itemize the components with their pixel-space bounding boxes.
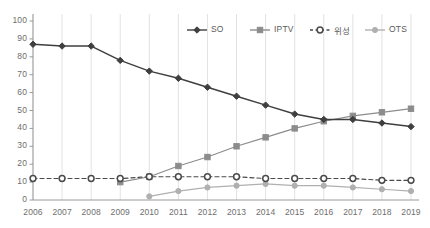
y-axis-tick-label: 60	[5, 87, 27, 97]
data-point-marker	[321, 183, 326, 188]
series-so	[30, 41, 414, 130]
legend-label-iptv: IPTV	[274, 24, 294, 34]
legend-marker-glyph	[257, 27, 262, 32]
data-point-marker	[205, 185, 210, 190]
legend-marker-glyph	[372, 27, 377, 32]
data-point-marker	[292, 176, 298, 182]
legend-marker--	[310, 27, 330, 33]
data-point-marker	[117, 57, 123, 63]
data-point-marker	[233, 93, 239, 99]
data-point-marker	[88, 43, 94, 49]
chart-container: 0102030405060708090100 20062007200820092…	[0, 0, 430, 228]
y-axis-tick-label: 100	[5, 15, 27, 25]
legend-marker-glyph	[194, 27, 200, 33]
data-point-marker	[321, 176, 327, 182]
data-point-marker	[292, 183, 297, 188]
data-point-marker	[147, 194, 152, 199]
data-point-marker	[59, 176, 65, 182]
series-layer	[30, 41, 414, 199]
data-point-marker	[205, 174, 211, 180]
y-axis-tick-label: 50	[5, 105, 27, 115]
data-point-marker	[146, 68, 152, 74]
legend-marker-iptv	[250, 27, 270, 32]
data-point-marker	[88, 176, 94, 182]
legend-label--: 위성	[334, 24, 350, 36]
data-point-marker	[379, 110, 384, 115]
y-axis-tick-label: 10	[5, 176, 27, 186]
data-point-marker	[408, 177, 414, 183]
data-point-marker	[408, 188, 413, 193]
data-point-marker	[408, 123, 414, 129]
y-axis-tick-label: 80	[5, 51, 27, 61]
data-point-marker	[175, 75, 181, 81]
data-point-marker	[350, 185, 355, 190]
data-point-marker	[30, 176, 36, 182]
data-point-marker	[146, 174, 152, 180]
legend-label-ots: OTS	[389, 24, 407, 34]
data-point-marker	[205, 154, 210, 159]
data-point-marker	[263, 176, 269, 182]
y-axis-tick-label: 40	[5, 122, 27, 132]
data-point-marker	[204, 84, 210, 90]
x-axis-tick-label: 2019	[394, 207, 428, 217]
data-point-marker	[175, 174, 181, 180]
data-point-marker	[379, 187, 384, 192]
legend-marker-glyph	[317, 27, 323, 33]
y-axis-tick-label: 0	[5, 194, 27, 204]
data-point-marker	[262, 102, 268, 108]
data-point-marker	[234, 144, 239, 149]
y-axis-tick-label: 90	[5, 33, 27, 43]
y-axis-tick-label: 30	[5, 140, 27, 150]
grid-layer	[33, 14, 411, 200]
data-point-marker	[117, 176, 123, 182]
legend-marker-so	[187, 27, 207, 33]
data-point-marker	[379, 120, 385, 126]
line-chart-plot	[0, 0, 430, 228]
axis-layer	[30, 14, 420, 200]
data-point-marker	[291, 111, 297, 117]
data-point-marker	[263, 135, 268, 140]
series-ots	[147, 181, 414, 199]
data-point-marker	[234, 183, 239, 188]
y-axis-tick-label: 20	[5, 158, 27, 168]
series--	[30, 174, 414, 183]
y-axis-tick-label: 70	[5, 69, 27, 79]
data-point-marker	[350, 176, 356, 182]
series-line	[149, 184, 411, 197]
data-point-marker	[59, 43, 65, 49]
data-point-marker	[176, 163, 181, 168]
data-point-marker	[234, 174, 240, 180]
data-point-marker	[292, 126, 297, 131]
legend-label-so: SO	[211, 24, 224, 34]
data-point-marker	[379, 177, 385, 183]
data-point-marker	[30, 41, 36, 47]
data-point-marker	[176, 188, 181, 193]
data-point-marker	[408, 106, 413, 111]
